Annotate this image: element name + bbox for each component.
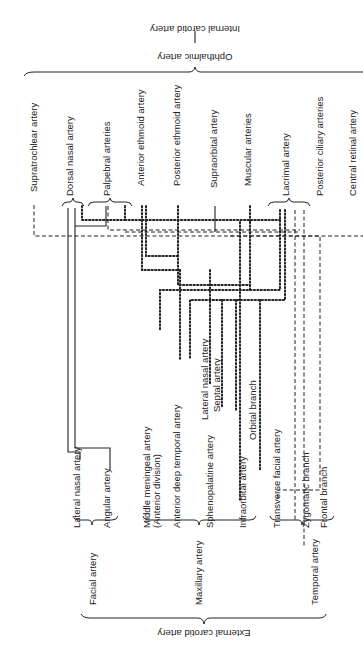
infraorbital-label: Infraorbital artery xyxy=(237,456,248,528)
lateral-nasal-label: Lateral nasal artery xyxy=(71,446,82,528)
muscular-label: Muscular arteries xyxy=(242,113,253,186)
palpebral-solid-line xyxy=(75,206,106,226)
dorsal-nasal-label: Dorsal nasal artery xyxy=(64,116,75,196)
transverse-facial-label: Transverse facial artery xyxy=(271,429,282,528)
posterior-ethmoid-line xyxy=(178,206,250,285)
central-retinal-label: Central retinal artery xyxy=(347,110,358,196)
supratrochlear-label: Supratrochlear artery xyxy=(28,103,39,192)
dorsal-nasal-dotted xyxy=(82,206,125,220)
anterior-ethmoid-line-2 xyxy=(146,206,180,256)
posterior-ciliary-label: Posterior ciliary arteries xyxy=(314,97,325,196)
frontal-label: Frontal branch xyxy=(318,467,329,528)
anterior-ethmoid-label: Anterior ethmoid artery xyxy=(135,89,146,186)
external-carotid-brace xyxy=(81,614,326,624)
orbital-branch-label: Orbital branch xyxy=(247,380,258,440)
lateral-nasal-connection xyxy=(68,208,80,460)
artery-diagram: Internal carotid artery Ophthalmic arter… xyxy=(0,0,363,668)
lacrimal-brace xyxy=(268,198,310,206)
posterior-ethmoid-label: Posterior ethmoid artery xyxy=(171,84,182,186)
dorsal-nasal-brace xyxy=(62,198,84,206)
lacrimal-label: Lacrimal artery xyxy=(280,133,291,196)
angular-label: Angular artery xyxy=(101,468,112,528)
lateral-nasal-maxillary-label: Lateral nasal artery xyxy=(199,338,210,420)
supraorbital-label: Supraorbital artery xyxy=(208,110,219,188)
ophthalmic-brace xyxy=(24,67,363,76)
palpebral-dashed xyxy=(108,206,300,230)
palpebral-dotted xyxy=(125,206,280,220)
angular-connection xyxy=(75,208,110,470)
maxillary-artery-label: Maxillary artery xyxy=(193,540,204,605)
sphenopalatine-label: Sphenopalatine artery xyxy=(204,435,215,528)
facial-artery-label: Facial artery xyxy=(87,552,98,605)
palpebral-brace xyxy=(88,198,132,206)
septal-label: Septal artery xyxy=(211,358,222,412)
palpebral-label: Palpebral arteries xyxy=(101,121,112,196)
anterior-deep-temporal-label: Anterior deep temporal artery xyxy=(171,404,182,528)
anterior-division-label: (Anterior division) xyxy=(151,454,162,528)
anterior-ethmoid-line xyxy=(142,206,180,270)
zygomatic-label: Zygomatic branch xyxy=(300,452,311,528)
ophthalmic-label: Ophthalmic artery xyxy=(157,52,232,63)
external-carotid-label: External carotid artery xyxy=(157,628,250,639)
temporal-artery-label: Temporal artery xyxy=(309,539,320,605)
